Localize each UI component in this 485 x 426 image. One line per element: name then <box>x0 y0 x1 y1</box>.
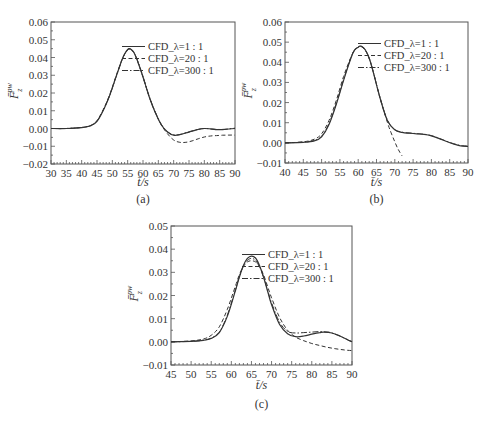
x-tick-label: 80 <box>199 167 211 179</box>
y-tick-label: 0.01 <box>29 105 48 117</box>
x-tick-label: 40 <box>76 167 88 179</box>
y-tick-label: 0.00 <box>263 137 283 149</box>
x-tick-label: 60 <box>226 368 238 380</box>
x-tick-label: 90 <box>347 368 359 380</box>
x-tick-label: 70 <box>389 166 401 178</box>
y-tick-label: 0.02 <box>29 87 48 99</box>
x-tick-label: 70 <box>168 167 180 179</box>
y-axis-label: F̄zpw <box>239 82 258 99</box>
legend-label: CFD_λ=20 : 1 <box>148 53 209 64</box>
y-tick-label: 0.03 <box>263 76 283 88</box>
x-tick-label: 45 <box>298 166 310 178</box>
chart-panel-c: 45505560657075808590−0.010.000.010.020.0… <box>125 220 358 411</box>
y-tick-label: 0.01 <box>263 117 282 129</box>
panel-caption: (b) <box>370 192 384 206</box>
x-tick-label: 90 <box>463 166 475 178</box>
x-tick-label: 80 <box>306 368 318 380</box>
y-tick-label: 0.01 <box>149 313 168 325</box>
plot-frame <box>51 22 235 164</box>
x-axis-label: t̄/s <box>371 175 383 189</box>
panel-caption: (c) <box>255 397 268 411</box>
y-tick-label: 0.03 <box>149 266 169 278</box>
y-tick-label: 0.02 <box>149 290 168 302</box>
x-axis-label: t̄/s <box>256 378 268 392</box>
y-tick-label: 0.00 <box>149 336 169 348</box>
x-tick-label: 65 <box>153 167 165 179</box>
x-tick-label: 50 <box>107 167 119 179</box>
x-tick-label: 85 <box>214 167 226 179</box>
legend-label: CFD_λ=20 : 1 <box>268 261 329 272</box>
legend-label: CFD_λ=300 : 1 <box>268 273 334 284</box>
x-tick-label: 75 <box>408 166 420 178</box>
y-tick-label: −0.01 <box>23 140 48 152</box>
figure-canvas: 30354045505560657075808590−0.02−0.010.00… <box>0 0 485 426</box>
y-axis-label: F̄zpw <box>125 285 144 302</box>
legend-label: CFD_λ=300 : 1 <box>148 65 214 76</box>
y-tick-label: 0.02 <box>263 97 282 109</box>
x-axis-label: t̄/s <box>137 175 149 189</box>
panel-caption: (a) <box>136 192 149 206</box>
x-tick-label: 80 <box>426 166 438 178</box>
x-tick-label: 50 <box>316 166 328 178</box>
y-tick-label: 0.06 <box>263 16 283 28</box>
x-tick-label: 50 <box>186 368 198 380</box>
chart-panel-a: 30354045505560657075808590−0.02−0.010.00… <box>5 16 241 206</box>
y-tick-label: 0.05 <box>263 36 283 48</box>
plot-frame <box>171 226 352 365</box>
y-tick-label: −0.02 <box>23 158 48 170</box>
legend-label: CFD_λ=1 : 1 <box>148 41 203 52</box>
y-axis-label: F̄zpw <box>5 83 24 100</box>
x-tick-label: 35 <box>61 167 73 179</box>
y-tick-label: 0.04 <box>149 243 169 255</box>
x-tick-label: 90 <box>230 167 242 179</box>
x-tick-label: 85 <box>444 166 456 178</box>
x-tick-label: 70 <box>266 368 278 380</box>
legend-label: CFD_λ=1 : 1 <box>384 38 439 49</box>
x-tick-label: 55 <box>206 368 218 380</box>
x-tick-label: 45 <box>92 167 104 179</box>
x-tick-label: 55 <box>122 167 134 179</box>
legend-label: CFD_λ=1 : 1 <box>268 249 323 260</box>
y-tick-label: 0.04 <box>263 56 283 68</box>
x-tick-label: 85 <box>326 368 338 380</box>
x-tick-label: 75 <box>184 167 196 179</box>
y-tick-label: 0.03 <box>29 69 49 81</box>
y-tick-label: −0.01 <box>257 157 282 169</box>
y-tick-label: −0.01 <box>143 359 168 371</box>
legend-label: CFD_λ=300 : 1 <box>384 62 450 73</box>
y-tick-label: 0.04 <box>29 52 49 64</box>
x-tick-label: 75 <box>286 368 298 380</box>
x-tick-label: 60 <box>353 166 365 178</box>
chart-panel-b: 4045505560657075808590−0.010.000.010.020… <box>239 16 474 206</box>
x-tick-label: 55 <box>334 166 346 178</box>
legend-label: CFD_λ=20 : 1 <box>384 50 445 61</box>
y-tick-label: 0.05 <box>149 220 169 232</box>
y-tick-label: 0.05 <box>29 34 49 46</box>
y-tick-label: 0.06 <box>29 16 49 28</box>
y-tick-label: 0.00 <box>29 123 49 135</box>
